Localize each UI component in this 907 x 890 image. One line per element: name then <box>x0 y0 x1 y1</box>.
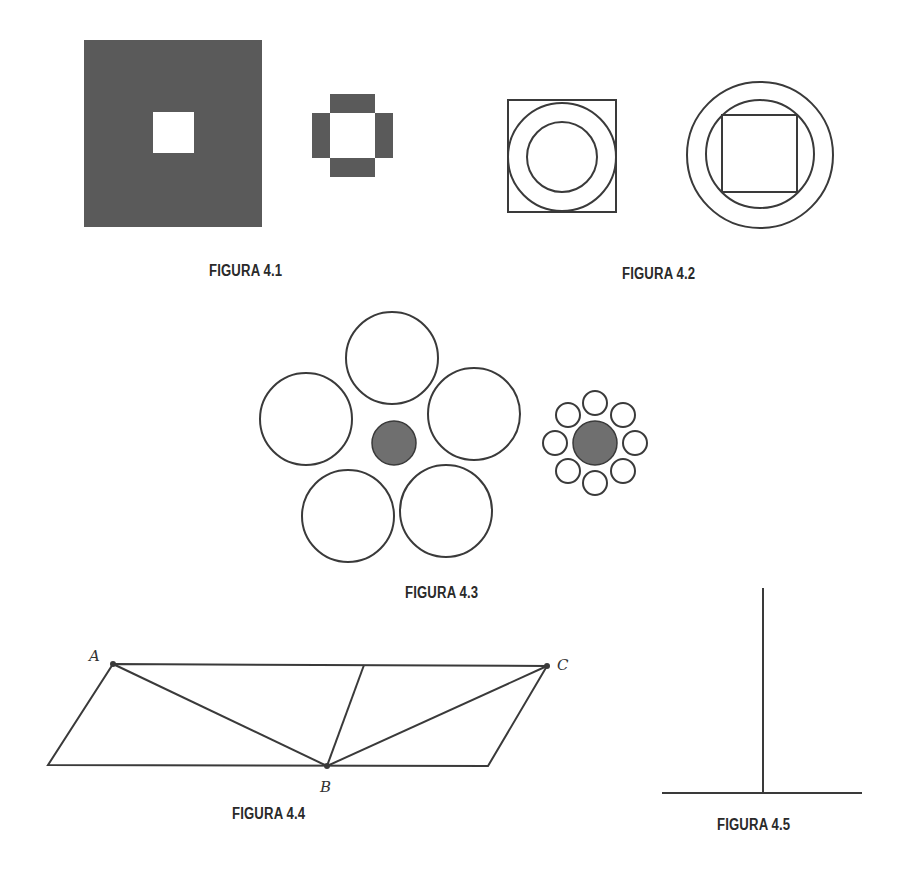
label-a: A <box>87 647 100 665</box>
figures-canvas: A B C <box>0 0 907 890</box>
center-gray-circle-right <box>573 421 617 465</box>
outer-circle <box>687 82 833 228</box>
point-a <box>110 661 116 667</box>
caption-figura-4-1: FIGURA 4.1 <box>209 262 282 280</box>
dark-square-with-hole <box>84 40 262 227</box>
ring-inner-circle <box>527 122 597 192</box>
caption-figura-4-2: FIGURA 4.2 <box>622 265 695 283</box>
caption-figura-4-5: FIGURA 4.5 <box>717 816 790 834</box>
inscribed-square <box>722 115 797 192</box>
parallelogram <box>48 664 547 766</box>
segment-ab <box>113 664 327 766</box>
center-gray-circle-left <box>372 421 416 465</box>
figure-4-4 <box>48 661 550 769</box>
point-b <box>324 763 330 769</box>
figure-4-3 <box>260 312 647 562</box>
figure-4-5 <box>662 588 862 793</box>
label-c: C <box>557 656 569 674</box>
segment-bc <box>327 666 547 766</box>
figure-4-2 <box>508 82 833 228</box>
small-cross-frame <box>312 94 393 177</box>
ring-outer-circle <box>508 103 616 211</box>
point-c <box>544 663 550 669</box>
label-b: B <box>319 778 331 796</box>
figure-4-1 <box>84 40 393 227</box>
caption-figura-4-3: FIGURA 4.3 <box>405 584 478 602</box>
caption-figura-4-4: FIGURA 4.4 <box>232 805 305 823</box>
